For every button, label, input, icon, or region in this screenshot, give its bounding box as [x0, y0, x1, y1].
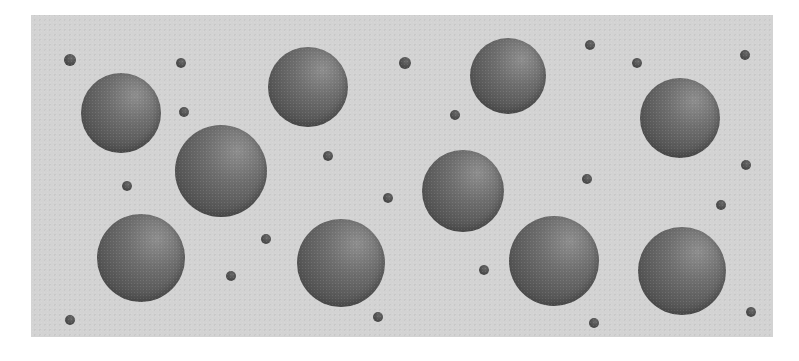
small-sphere-dot — [740, 50, 750, 60]
small-sphere-dot — [261, 234, 271, 244]
small-sphere-dot — [746, 307, 756, 317]
small-sphere-dot — [373, 312, 383, 322]
image-canvas — [0, 0, 799, 361]
small-sphere-dot — [176, 58, 186, 68]
small-sphere-dot — [383, 193, 393, 203]
small-sphere-dot — [589, 318, 599, 328]
small-sphere-dot — [450, 110, 460, 120]
small-sphere-dot — [65, 315, 75, 325]
small-sphere-dot — [632, 58, 642, 68]
large-sphere — [509, 216, 599, 306]
small-sphere-dot — [479, 265, 489, 275]
large-sphere — [81, 73, 161, 153]
small-sphere-dot — [741, 160, 751, 170]
large-sphere — [297, 219, 385, 307]
small-sphere-dot — [716, 200, 726, 210]
large-sphere — [640, 78, 720, 158]
small-sphere-dot — [585, 40, 595, 50]
small-sphere-dot — [226, 271, 236, 281]
large-sphere — [268, 47, 348, 127]
spheres-panel — [31, 15, 773, 337]
large-sphere — [97, 214, 185, 302]
large-sphere — [638, 227, 726, 315]
small-sphere-dot — [64, 54, 76, 66]
small-sphere-dot — [582, 174, 592, 184]
large-sphere — [175, 125, 267, 217]
small-sphere-dot — [122, 181, 132, 191]
large-sphere — [470, 38, 546, 114]
large-sphere — [422, 150, 504, 232]
small-sphere-dot — [323, 151, 333, 161]
small-sphere-dot — [399, 57, 411, 69]
small-sphere-dot — [179, 107, 189, 117]
